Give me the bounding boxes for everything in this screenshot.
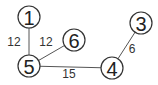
node-5: 5 <box>18 55 40 78</box>
node-label-5: 5 <box>23 56 34 78</box>
node-label-3: 3 <box>135 13 146 35</box>
edge-weight-1-5: 12 <box>7 35 21 49</box>
node-label-4: 4 <box>106 58 117 80</box>
node-3: 3 <box>130 12 152 35</box>
edge-weight-5-6: 12 <box>39 35 53 49</box>
node-4: 4 <box>101 57 123 80</box>
node-label-1: 1 <box>23 7 34 29</box>
edge-weight-4-3: 6 <box>129 42 136 56</box>
graph-diagram: 12 12 15 6 1 5 6 4 3 <box>0 0 158 85</box>
node-6: 6 <box>63 29 85 52</box>
node-label-6: 6 <box>68 30 79 52</box>
edge-weight-5-4: 15 <box>62 67 76 81</box>
node-1: 1 <box>18 6 40 29</box>
